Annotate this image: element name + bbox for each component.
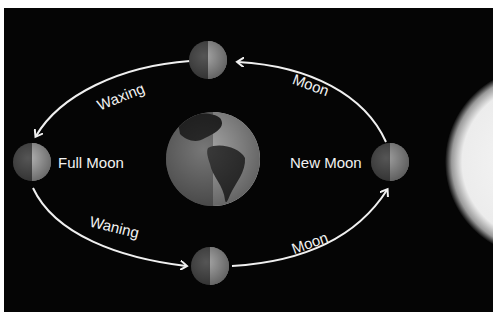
label-waxing: Waxing — [95, 79, 147, 113]
bottom-moon — [191, 247, 229, 285]
label-moon-bottom: Moon — [289, 228, 330, 257]
label-moon-top: Moon — [290, 70, 331, 99]
sun — [445, 67, 493, 257]
label-waning: Waning — [88, 213, 141, 242]
earth — [166, 110, 263, 210]
arrow-moon-bottom — [232, 190, 387, 266]
label-full-moon: Full Moon — [58, 154, 124, 171]
new-moon — [371, 143, 409, 181]
label-new-moon: New Moon — [290, 154, 362, 171]
top-moon — [189, 41, 227, 79]
arrow-moon-top — [238, 62, 386, 142]
diagram-panel: Waxing Moon Full Moon New Moon Waning Mo… — [4, 8, 493, 312]
moon-phase-diagram: Waxing Moon Full Moon New Moon Waning Mo… — [4, 8, 493, 312]
full-moon — [13, 143, 51, 181]
